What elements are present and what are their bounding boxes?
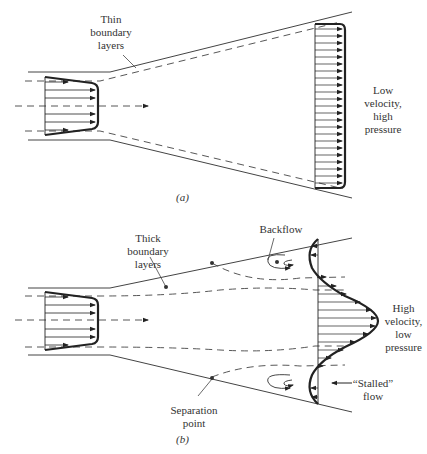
stalled-flow-label: “Stalled” flow (350, 377, 396, 403)
caption-b: (b) (176, 433, 189, 445)
separation-point-label: Separation point (166, 404, 222, 430)
diffuser-b (15, 238, 352, 412)
inlet-profile-b (45, 292, 98, 350)
thin-boundary-layers-label: Thin boundary layers (90, 13, 132, 52)
low-velocity-label: Low velocity, high pressure (353, 84, 413, 136)
backflow-label: Backflow (256, 223, 306, 236)
marker-dots (164, 260, 279, 380)
thick-boundary-layers-label: Thick boundary layers (126, 232, 170, 271)
diffuser-a (15, 12, 352, 198)
backflow-eddy-top (268, 255, 293, 269)
high-velocity-label: High velocity, low pressure (380, 302, 427, 354)
backflow-eddy-bottom (268, 375, 293, 389)
outlet-profile-a (315, 24, 345, 188)
caption-a: (a) (176, 191, 189, 203)
